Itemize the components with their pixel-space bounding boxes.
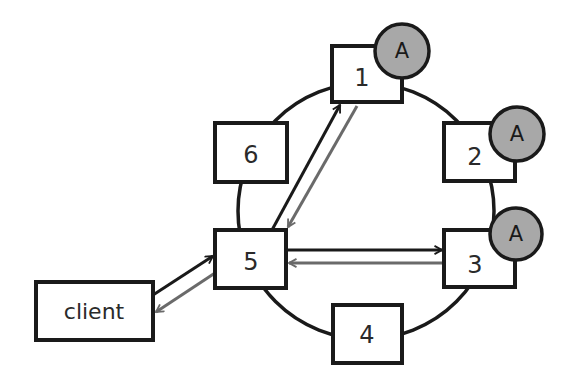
replica-badge-label-node-2: A (510, 122, 525, 146)
arrows (153, 105, 444, 312)
node-5[interactable]: 5 (215, 230, 286, 288)
ring-replication-diagram: client 1 A 2 A 3 A 4 5 6 (0, 0, 579, 387)
node-2-label: 2 (467, 143, 482, 171)
arrow-node-1-to-node-5 (288, 106, 357, 227)
node-3[interactable]: 3 A (444, 208, 542, 287)
node-2[interactable]: 2 A (444, 107, 544, 181)
node-1[interactable]: 1 A (332, 24, 429, 102)
arrow-node-5-to-client (156, 273, 215, 312)
node-6[interactable]: 6 (215, 123, 287, 182)
arrow-client-to-node-5 (153, 256, 213, 295)
node-3-label: 3 (467, 251, 482, 279)
replica-badge-label-node-3: A (509, 222, 524, 246)
node-6-label: 6 (243, 141, 258, 169)
node-4-label: 4 (359, 321, 374, 349)
replica-badge-label-node-1: A (395, 39, 410, 63)
client-label: client (64, 299, 125, 324)
node-4[interactable]: 4 (333, 305, 402, 363)
node-5-label: 5 (243, 248, 258, 276)
node-1-label: 1 (354, 64, 369, 92)
client-node[interactable]: client (36, 282, 153, 340)
